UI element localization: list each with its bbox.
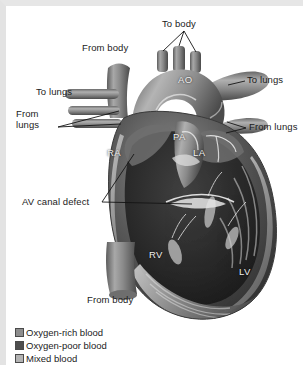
- legend-item: Mixed blood: [15, 352, 107, 365]
- label-to-lungs-left: To lungs: [36, 86, 72, 97]
- figure-panel: To body From body To lungs To lungs From…: [0, 0, 303, 365]
- legend-swatch-oxygen-poor: [15, 341, 24, 350]
- legend-label-oxygen-rich: Oxygen-rich blood: [26, 327, 103, 338]
- label-from-body-bottom: From body: [87, 294, 133, 305]
- legend-label-mixed: Mixed blood: [26, 353, 77, 364]
- heart-artwork: [6, 6, 303, 365]
- label-from-lungs-left-line2: lungs: [16, 119, 39, 130]
- legend: Oxygen-rich blood Oxygen-poor blood Mixe…: [15, 326, 107, 365]
- legend-label-oxygen-poor: Oxygen-poor blood: [26, 340, 107, 351]
- legend-swatch-oxygen-rich: [15, 328, 24, 337]
- chamber-label-lv: LV: [239, 266, 251, 277]
- chamber-label-la: LA: [193, 147, 205, 158]
- chamber-label-rv: RV: [149, 249, 163, 260]
- label-to-body: To body: [162, 18, 196, 29]
- chamber-label-pa: PA: [173, 131, 186, 142]
- legend-item: Oxygen-rich blood: [15, 326, 107, 339]
- left-pulmonary-vessels: [65, 89, 122, 128]
- label-from-body-top: From body: [82, 42, 128, 53]
- label-from-lungs-left-line1: From: [16, 108, 39, 119]
- label-from-lungs-right: From lungs: [249, 121, 298, 132]
- legend-swatch-mixed: [15, 354, 24, 363]
- chamber-label-ao: AO: [178, 74, 193, 85]
- label-av-canal-defect: AV canal defect: [22, 196, 89, 207]
- inferior-vena-cava: [106, 242, 137, 300]
- label-to-lungs-right: To lungs: [247, 74, 283, 85]
- chamber-label-ra: RA: [107, 147, 121, 158]
- legend-item: Oxygen-poor blood: [15, 339, 107, 352]
- heart-illustration: To body From body To lungs To lungs From…: [6, 6, 303, 365]
